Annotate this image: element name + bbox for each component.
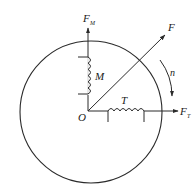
- rotation-arrow: n: [160, 60, 175, 96]
- vector-fm: F M: [82, 12, 96, 111]
- motor-phasor-diagram: F M M F T T F n O: [0, 0, 195, 193]
- vector-f: F: [88, 21, 175, 111]
- winding-m-label: M: [94, 70, 105, 82]
- winding-t: T: [108, 94, 144, 122]
- winding-t-label: T: [121, 94, 128, 106]
- stator-circle: [20, 41, 162, 183]
- vector-ft-label: F: [179, 105, 187, 117]
- origin-label: O: [78, 111, 86, 123]
- winding-m: M: [78, 57, 105, 94]
- vector-ft-subscript: T: [187, 113, 191, 119]
- vector-ft: F T: [88, 105, 191, 119]
- vector-fm-subscript: M: [89, 20, 96, 26]
- vector-f-label: F: [167, 21, 175, 33]
- vector-fm-label: F: [82, 12, 90, 24]
- rotation-label: n: [170, 67, 175, 78]
